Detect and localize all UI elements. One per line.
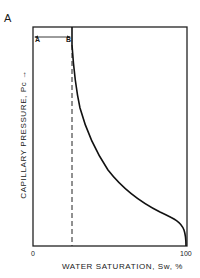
capillary-pressure-curve <box>72 27 186 246</box>
x-tick-100: 100 <box>180 250 192 257</box>
x-axis-label: WATER SATURATION, Sw, % <box>62 262 183 271</box>
marker-b: B <box>66 36 71 43</box>
x-tick-0: 0 <box>31 250 35 257</box>
chart-plot <box>0 0 200 278</box>
marker-a: A <box>35 36 40 43</box>
